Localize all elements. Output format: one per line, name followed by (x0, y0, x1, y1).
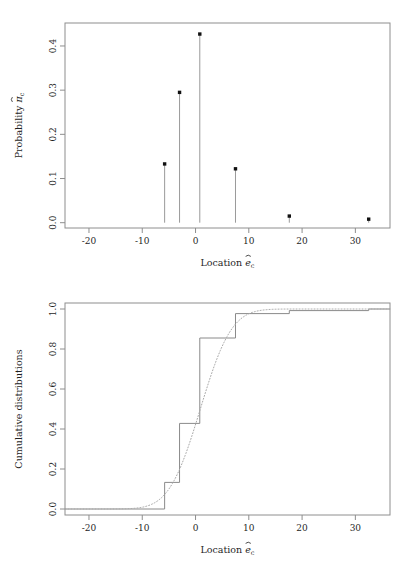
x-tick-label: 30 (350, 236, 362, 246)
cumulative-distribution-chart: -20-1001020300.00.20.40.60.81.0Location … (0, 292, 410, 585)
y-tick-label: 1.0 (48, 302, 58, 317)
y-tick-label: 0.6 (48, 382, 58, 397)
y-tick-label: 0.8 (48, 342, 58, 357)
plot-frame (65, 23, 390, 228)
x-tick-label: 0 (193, 236, 199, 246)
x-axis-title-text: Location ec (201, 544, 255, 557)
x-axis-title-text: Location ec (201, 257, 255, 270)
y-tick-label: 0.0 (48, 215, 58, 230)
y-tick-label: 0.2 (48, 127, 58, 141)
y-axis-title: Cumulative distributions (13, 349, 24, 468)
x-tick-label: 20 (296, 236, 308, 246)
y-tick-label: 0.4 (48, 422, 58, 437)
x-tick-label: 10 (243, 236, 255, 246)
spike-point (288, 214, 291, 217)
spike-point (367, 217, 370, 220)
figure-container: -20-1001020300.00.10.20.30.4Location ecP… (0, 0, 410, 585)
spike-series (163, 32, 370, 222)
x-tick-label: 20 (296, 523, 308, 533)
x-axis-title: Location ec (201, 542, 255, 556)
y-tick-label: 0.3 (48, 83, 58, 98)
x-tick-label: -20 (82, 236, 97, 246)
x-tick-label: 10 (243, 523, 255, 533)
spike-point (234, 167, 237, 170)
x-tick-label: 30 (350, 523, 362, 533)
spike-point (178, 91, 181, 94)
y-tick-label: 0.1 (48, 171, 58, 185)
spike-point (198, 32, 201, 35)
y-tick-label: 0.4 (48, 39, 58, 54)
x-tick-label: 0 (193, 523, 199, 533)
cumulative-distribution-panel: -20-1001020300.00.20.40.60.81.0Location … (0, 292, 410, 585)
x-tick-label: -10 (135, 523, 150, 533)
empirical-cdf-step (65, 309, 390, 509)
fitted-cdf-curve (65, 309, 390, 509)
y-axis-title-text: Probability πc (13, 92, 26, 158)
x-axis-title: Location ec (201, 255, 255, 269)
x-tick-label: -20 (82, 523, 97, 533)
x-tick-label: -10 (135, 236, 150, 246)
y-tick-label: 0.2 (48, 462, 58, 476)
y-axis-title: Probability πc (11, 92, 25, 158)
y-tick-label: 0.0 (48, 502, 58, 517)
probability-mass-panel: -20-1001020300.00.10.20.30.4Location ecP… (0, 0, 410, 292)
spike-point (163, 162, 166, 165)
probability-mass-chart: -20-1001020300.00.10.20.30.4Location ecP… (0, 0, 410, 292)
